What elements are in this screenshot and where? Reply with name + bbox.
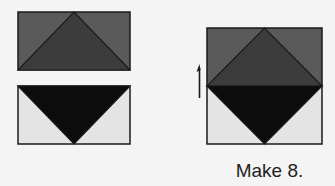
bottom-flying-geese-unit xyxy=(18,86,130,144)
press-arrow-icon xyxy=(197,64,201,98)
instruction-caption: Make 8. xyxy=(222,160,317,182)
result-block xyxy=(207,28,322,144)
top-flying-geese-unit xyxy=(18,12,130,70)
quilt-diagram xyxy=(0,0,335,186)
